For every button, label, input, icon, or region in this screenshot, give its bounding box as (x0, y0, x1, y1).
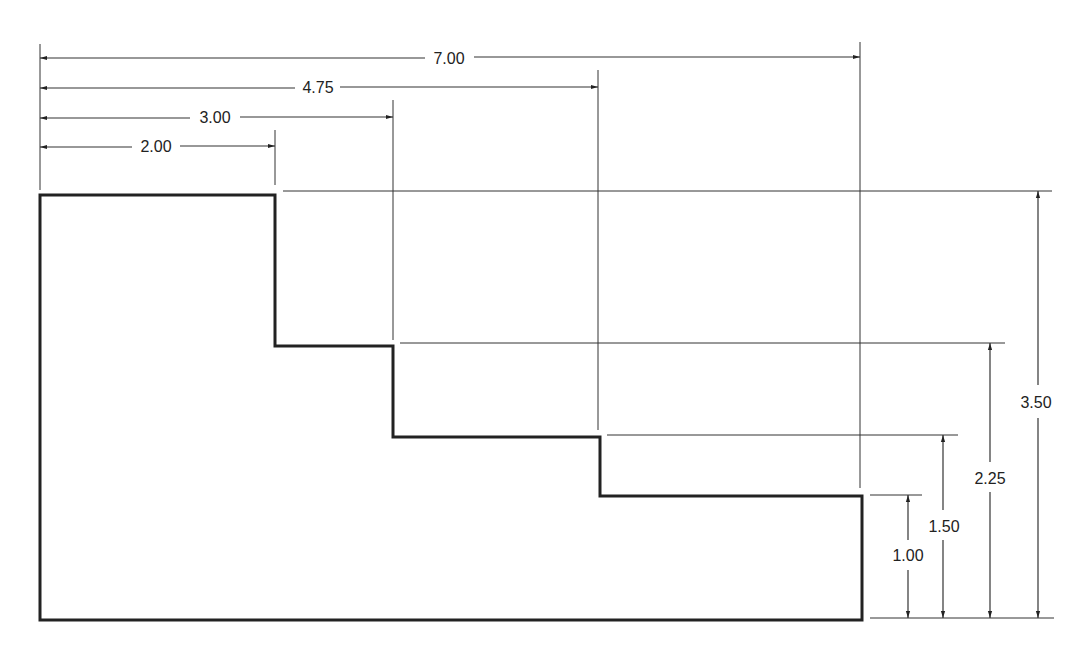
technical-drawing: 7.00 4.75 3.00 2.00 3.50 2.25 1.50 1.00 (0, 0, 1091, 652)
dim-label-4.75: 4.75 (302, 79, 333, 96)
dim-label-3.50: 3.50 (1020, 394, 1051, 411)
horizontal-dimensions (40, 57, 860, 147)
part-profile (40, 195, 862, 620)
vertical-dimensions (908, 191, 1038, 618)
dim-label-3.00: 3.00 (199, 109, 230, 126)
dim-label-2.00: 2.00 (140, 138, 171, 155)
extension-lines-vertical (40, 42, 860, 488)
dim-label-2.25: 2.25 (974, 470, 1005, 487)
extension-lines-horizontal (283, 191, 1054, 618)
dim-label-7.00: 7.00 (433, 50, 464, 67)
dim-label-1.00: 1.00 (892, 547, 923, 564)
dim-label-1.50: 1.50 (928, 518, 959, 535)
